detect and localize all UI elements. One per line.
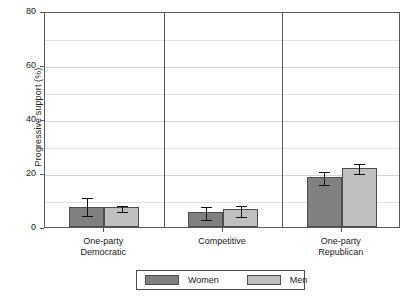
error-bar-cap-lower (82, 216, 93, 217)
x-axis-label-line1: Competitive (162, 236, 282, 247)
error-bar-cap-lower (354, 174, 365, 175)
y-axis-ticks: 020406080 (0, 0, 44, 240)
gridline-minor (45, 148, 399, 149)
x-tick-mark (103, 228, 104, 232)
error-bar-cap-upper (201, 207, 212, 208)
y-tick-mark (40, 228, 44, 229)
chart-legend: WomenMen (136, 270, 305, 290)
x-axis-label: One-partyRepublican (281, 236, 401, 258)
y-tick-label: 0 (6, 223, 36, 232)
x-tick-mark (222, 228, 223, 232)
plot-area (44, 12, 400, 228)
error-bar-stem (324, 172, 325, 186)
legend-label: Men (290, 275, 308, 285)
x-axis-label: One-partyDemocratic (43, 236, 163, 258)
bar-men (342, 168, 377, 227)
gridline-major (45, 121, 399, 122)
legend-entry-men: Men (247, 271, 308, 289)
facet-divider (164, 13, 165, 227)
gridline-minor (45, 40, 399, 41)
x-axis-label-line1: One-party (281, 236, 401, 247)
error-bar-stem (87, 198, 88, 216)
y-tick-label: 60 (6, 61, 36, 70)
error-bar-stem (359, 164, 360, 174)
error-bar-cap-upper (117, 206, 128, 207)
bar-fill (342, 168, 377, 227)
legend-swatch (247, 275, 281, 285)
error-bar-cap-lower (236, 217, 247, 218)
x-axis-label-line1: One-party (43, 236, 163, 247)
y-tick-label: 20 (6, 169, 36, 178)
y-tick-label: 40 (6, 115, 36, 124)
error-bar-cap-upper (236, 206, 247, 207)
error-bar-stem (241, 206, 242, 217)
gridline-major (45, 67, 399, 68)
legend-swatch (145, 275, 179, 285)
x-tick-mark (341, 228, 342, 232)
legend-label: Women (188, 275, 219, 285)
x-axis-label-line2: Republican (281, 247, 401, 258)
gridline-minor (45, 94, 399, 95)
chart-figure: Progressive support (%) 020406080 One-pa… (0, 0, 411, 299)
legend-entry-women: Women (145, 271, 219, 289)
error-bar-cap-upper (82, 198, 93, 199)
plot-inner (45, 13, 399, 227)
facet-divider (282, 13, 283, 227)
error-bar-cap-lower (319, 185, 330, 186)
error-bar-cap-upper (354, 164, 365, 165)
error-bar-stem (206, 207, 207, 220)
error-bar-cap-lower (201, 220, 212, 221)
x-axis-label-line2: Democratic (43, 247, 163, 258)
error-bar-cap-upper (319, 172, 330, 173)
error-bar-cap-lower (117, 212, 128, 213)
y-tick-label: 80 (6, 7, 36, 16)
x-axis-label: Competitive (162, 236, 282, 247)
